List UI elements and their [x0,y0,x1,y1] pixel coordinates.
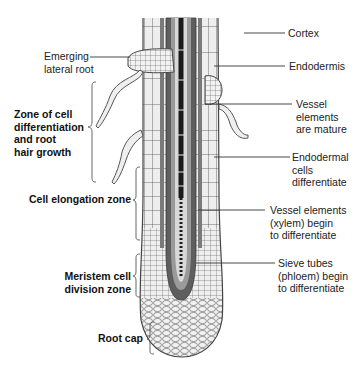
label-line: (phloem) begin [278,270,348,283]
label-line: Vessel [296,98,347,111]
label-meristem: Meristem cell division zone [63,270,131,295]
label-line: Emerging [44,50,94,63]
label-line: Zone of cell [14,108,84,121]
label-line: differentiate [292,176,349,189]
label-xylem-begin: Vessel elements (xylem) begin to differe… [270,204,346,242]
label-zone-differentiation: Zone of cell differentiation and root ha… [14,108,84,158]
label-line: to differentiate [270,229,346,242]
label-line: Sieve tubes [278,257,348,270]
label-line: cells [292,164,349,177]
label-cell-elongation: Cell elongation zone [29,193,131,206]
label-endodermal-differentiate: Endodermal cells differentiate [292,151,349,189]
label-line: to differentiate [278,282,348,295]
label-line: differentiation [14,121,84,134]
label-line: Root cap [98,332,143,345]
emerging-lateral-root-shape [128,49,174,73]
label-endodermis: Endodermis [289,60,345,73]
label-line: Endodermal [292,151,349,164]
label-line: Cortex [288,27,319,40]
label-line: are mature [296,123,347,136]
label-line: division zone [63,283,131,296]
label-line: lateral root [44,63,94,76]
label-line: Cell elongation zone [29,193,131,206]
label-line: elements [296,111,347,124]
label-phloem-begin: Sieve tubes (phloem) begin to differenti… [278,257,348,295]
label-root-cap: Root cap [98,332,143,345]
label-cortex: Cortex [288,27,319,40]
label-line: hair growth [14,146,84,159]
label-vessel-mature: Vessel elements are mature [296,98,347,136]
root-tip-diagram: Emerging lateral root Zone of cell diffe… [0,0,362,371]
label-line: (xylem) begin [270,217,346,230]
label-line: Endodermis [289,60,345,73]
label-line: Vessel elements [270,204,346,217]
label-line: Meristem cell [63,270,131,283]
label-emerging-lateral-root: Emerging lateral root [44,50,94,75]
label-line: and root [14,133,84,146]
